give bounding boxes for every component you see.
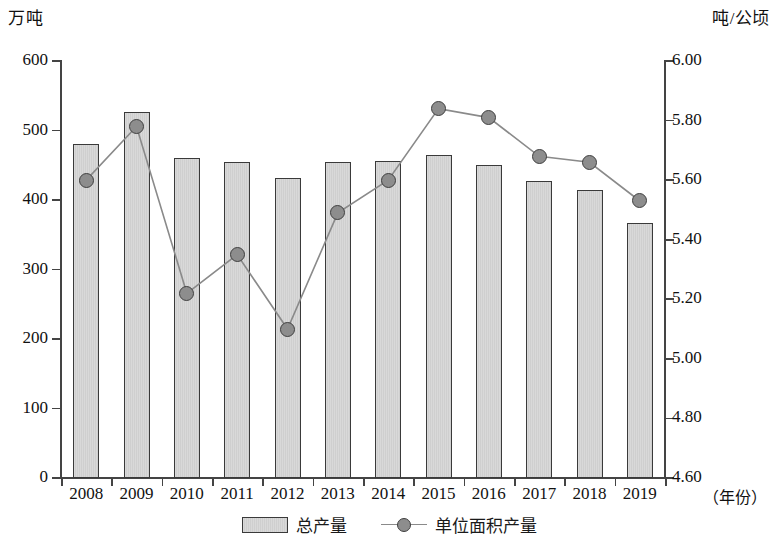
right-tick-label: 4.80	[672, 407, 732, 427]
right-tick-label: 5.20	[672, 288, 732, 308]
line-marker-2009	[129, 119, 144, 134]
x-label-2014: 2014	[359, 484, 417, 504]
line-marker-2008	[79, 173, 94, 188]
line-marker-2017	[532, 149, 547, 164]
legend-item-total-output: 总产量	[242, 512, 347, 537]
bar-2014	[375, 161, 401, 478]
x-label-2015: 2015	[410, 484, 468, 504]
line-marker-2012	[280, 322, 295, 337]
x-label-2018: 2018	[561, 484, 619, 504]
x-label-2013: 2013	[309, 484, 367, 504]
bar-2015	[426, 155, 452, 478]
left-tick	[52, 408, 61, 410]
left-tick	[52, 477, 61, 479]
right-tick-label: 5.00	[672, 348, 732, 368]
x-label-2012: 2012	[259, 484, 317, 504]
legend-bar-label: 总产量	[296, 512, 347, 537]
line-marker-2016	[481, 110, 496, 125]
chart-figure: 万吨 吨/公顷 6005004003002001000 6.005.805.60…	[0, 0, 778, 543]
left-tick	[52, 130, 61, 132]
right-tick-label: 5.80	[672, 110, 732, 130]
line-marker-2018	[582, 155, 597, 170]
bar-2019	[627, 223, 653, 478]
bar-2009	[124, 112, 150, 478]
left-tick	[52, 269, 61, 271]
bar-2008	[73, 144, 99, 478]
bar-2017	[526, 181, 552, 478]
x-label-2011: 2011	[208, 484, 266, 504]
x-label-2009: 2009	[108, 484, 166, 504]
line-marker-2015	[431, 101, 446, 116]
left-tick-label: 100	[2, 398, 48, 418]
legend-line-marker-icon	[397, 518, 411, 532]
legend-line-label: 单位面积产量	[435, 512, 537, 537]
x-label-2019: 2019	[611, 484, 669, 504]
x-label-2017: 2017	[510, 484, 568, 504]
right-axis-line	[664, 60, 666, 479]
bar-2010	[174, 158, 200, 478]
right-tick-label: 6.00	[672, 50, 732, 70]
right-tick-label: 5.40	[672, 229, 732, 249]
right-tick-label: 5.60	[672, 169, 732, 189]
legend-item-yield-per-area: 单位面积产量	[381, 512, 537, 537]
bar-2018	[577, 190, 603, 478]
line-marker-2019	[632, 193, 647, 208]
left-tick	[52, 338, 61, 340]
left-tick	[52, 199, 61, 201]
right-axis-unit-label: 吨/公顷	[712, 4, 770, 29]
left-tick-label: 0	[2, 467, 48, 487]
line-marker-2011	[230, 247, 245, 262]
x-label-2016: 2016	[460, 484, 518, 504]
left-tick-label: 300	[2, 259, 48, 279]
left-tick-label: 400	[2, 189, 48, 209]
left-tick-label: 600	[2, 50, 48, 70]
line-marker-2014	[381, 173, 396, 188]
left-tick-label: 200	[2, 328, 48, 348]
bar-2011	[224, 162, 250, 478]
chart-legend: 总产量 单位面积产量	[0, 512, 778, 537]
legend-bar-swatch	[242, 517, 288, 533]
left-tick-label: 500	[2, 120, 48, 140]
x-label-2010: 2010	[158, 484, 216, 504]
legend-line-swatch	[381, 518, 427, 532]
left-tick	[52, 60, 61, 62]
bar-2016	[476, 165, 502, 478]
x-axis-title: （年份）	[703, 484, 767, 508]
x-label-2008: 2008	[57, 484, 115, 504]
left-axis-unit-label: 万吨	[8, 4, 43, 29]
